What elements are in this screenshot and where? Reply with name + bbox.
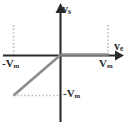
x-tick-neg-vm-subscript: m: [14, 62, 20, 69]
transfer-characteristic-figure: vs ve -Vm Vm -Vm: [0, 0, 137, 133]
plot-canvas: [0, 0, 137, 133]
y-tick-label-neg-vm: -Vm: [63, 88, 80, 100]
x-tick-vm-subscript: m: [107, 62, 113, 69]
curve-linear-branch: [14, 55, 61, 96]
x-tick-vm-base: V: [99, 57, 107, 69]
x-tick-label-neg-vm: -Vm: [2, 58, 19, 70]
x-axis-label-subscript: e: [120, 44, 123, 53]
x-tick-neg-vm-base: -V: [2, 57, 14, 69]
x-axis-label: ve: [114, 40, 123, 53]
y-axis-label-subscript: s: [68, 7, 71, 16]
y-axis-label: vs: [62, 3, 71, 16]
x-tick-label-vm: Vm: [99, 58, 113, 70]
y-tick-neg-vm-subscript: m: [75, 92, 81, 99]
y-tick-neg-vm-base: -V: [63, 87, 75, 99]
